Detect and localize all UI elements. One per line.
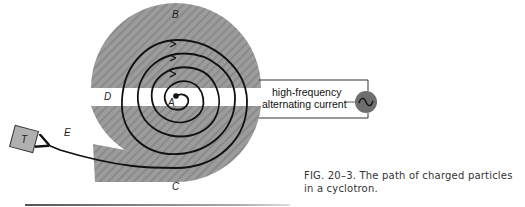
divider-rule xyxy=(25,204,290,206)
label-E: E xyxy=(64,127,71,138)
circuit-label-line1: high-frequency xyxy=(272,86,342,98)
caption-line-2: in a cyclotron. xyxy=(304,182,525,195)
label-T: T xyxy=(21,134,28,145)
label-C: C xyxy=(172,181,180,192)
circuit-label-line2: alternating current xyxy=(262,98,347,110)
label-B: B xyxy=(172,9,179,20)
caption-line-1: FIG. 20–3. The path of charged particles xyxy=(304,169,525,182)
figure-caption: FIG. 20–3. The path of charged particles… xyxy=(304,169,525,195)
lower-dee xyxy=(91,106,261,182)
label-A: A xyxy=(167,97,175,108)
label-D: D xyxy=(104,91,111,102)
